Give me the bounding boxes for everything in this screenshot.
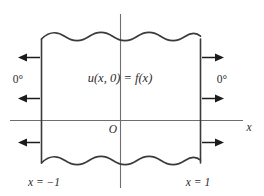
- flux-arrow-right-2: [202, 95, 224, 103]
- figure-canvas: u(x, 0) = f(x) 0° 0° O x x = −1 x = 1: [0, 0, 264, 196]
- initial-condition-label: u(x, 0) = f(x): [88, 71, 153, 85]
- flux-arrow-left-3: [18, 139, 40, 147]
- left-boundary-coordinate-label: x = −1: [27, 176, 60, 188]
- origin-label: O: [109, 123, 118, 135]
- right-boundary-coordinate-label: x = 1: [185, 176, 210, 188]
- flux-arrow-right-3: [202, 139, 224, 147]
- flux-arrow-left-2: [18, 95, 40, 103]
- left-boundary-temperature-label: 0°: [13, 73, 24, 85]
- heat-conduction-figure: u(x, 0) = f(x) 0° 0° O x x = −1 x = 1: [0, 0, 264, 196]
- right-boundary-temperature-label: 0°: [217, 73, 228, 85]
- x-axis-label: x: [245, 121, 252, 133]
- flux-arrow-right-1: [202, 54, 224, 62]
- flux-arrow-left-1: [18, 54, 40, 62]
